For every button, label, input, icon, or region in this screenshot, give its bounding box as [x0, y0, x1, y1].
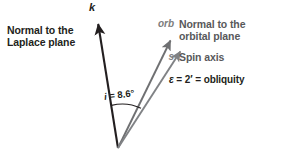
k-vector-arrow	[98, 24, 118, 148]
legend-orb-line1: Normal to the	[179, 18, 245, 30]
legend-item-orb: orb Normal to the orbital plane	[152, 18, 245, 42]
laplace-plane-label: Normal to the Laplace plane	[7, 24, 75, 49]
inclination-arc	[112, 104, 142, 108]
legend-orb-line2: orbital plane	[179, 30, 240, 42]
spin-vector-arrow	[118, 52, 180, 149]
legend-symbol-spin: s	[152, 51, 174, 62]
legend-item-spin: s Spin axis	[152, 51, 224, 63]
legend-text-orb: Normal to the orbital plane	[179, 18, 245, 42]
obliquity-diagram: k Normal to the Laplace plane orb Normal…	[0, 0, 283, 158]
k-axis-label: k	[89, 1, 95, 14]
laplace-label-line2: Laplace plane	[7, 36, 75, 48]
laplace-label-line1: Normal to the	[7, 24, 73, 36]
legend-text-spin: Spin axis	[179, 51, 224, 63]
legend-symbol-orb: orb	[152, 18, 174, 29]
obliquity-expression: = 2′ = obliquity	[174, 74, 245, 85]
inclination-value: 8.6°	[117, 87, 135, 100]
obliquity-label: ε = 2′ = obliquity	[169, 74, 244, 86]
